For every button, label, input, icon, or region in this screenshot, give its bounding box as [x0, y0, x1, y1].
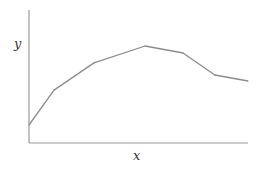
- data-point: [144, 45, 145, 46]
- series-line: [29, 46, 248, 125]
- line-chart: y x: [0, 0, 262, 170]
- data-point: [93, 62, 94, 63]
- y-axis-label: y: [13, 36, 22, 51]
- x-axis-label: x: [133, 148, 141, 163]
- data-point: [247, 80, 248, 81]
- data-point: [214, 74, 215, 75]
- data-point: [53, 89, 54, 90]
- data-point: [28, 124, 29, 125]
- data-point: [182, 52, 183, 53]
